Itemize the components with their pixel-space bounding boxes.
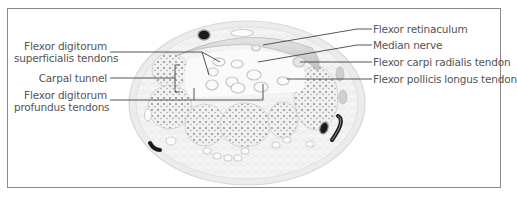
label-carpal-tunnel: Carpal tunnel xyxy=(14,72,107,84)
label-flexor-pollicis-longus: Flexor pollicis longus tendon xyxy=(373,73,517,85)
label-line: Carpal tunnel xyxy=(14,72,107,84)
label-line: profundus tendons xyxy=(14,101,107,113)
label-flexor-carpi-radialis: Flexor carpi radialis tendon xyxy=(373,56,510,68)
label-line: Flexor digitorum xyxy=(14,40,107,52)
label-flexor-digitorum-profundus: Flexor digitorum profundus tendons xyxy=(14,89,107,113)
label-line: Flexor digitorum xyxy=(14,89,107,101)
label-flexor-retinaculum: Flexor retinaculum xyxy=(373,23,468,35)
label-flexor-digitorum-superficialis: Flexor digitorum superficialis tendons xyxy=(14,40,107,64)
label-median-nerve: Median nerve xyxy=(373,39,442,51)
label-line: superficialis tendons xyxy=(14,52,107,64)
